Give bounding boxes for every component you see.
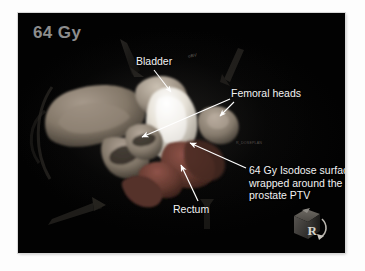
annotation-rectum: Rectum: [173, 203, 209, 216]
scene-tag-mid-right: R_DOSEPLAN: [236, 141, 262, 145]
dose-level-label: 64 Gy: [33, 23, 81, 43]
annotation-femoral-heads: Femoral heads: [231, 87, 301, 100]
femoral-head-right: [198, 106, 239, 144]
annotation-bladder: Bladder: [136, 55, 172, 68]
annotation-isodose-surface: 64 Gy Isodose surface wrapped around the…: [249, 164, 345, 202]
orientation-cube-face-letter: R: [308, 223, 317, 239]
slide-background: 64 Gy: [0, 0, 365, 271]
3d-render-viewport[interactable]: 64 Gy: [18, 13, 345, 253]
